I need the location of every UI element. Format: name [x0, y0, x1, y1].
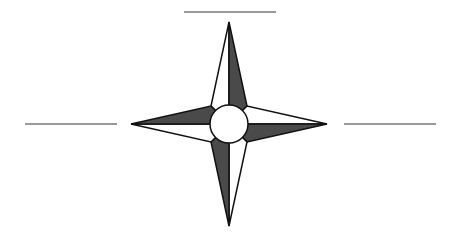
compass-star	[131, 22, 327, 226]
center-circle	[210, 105, 248, 143]
compass-rose-diagram	[0, 0, 450, 249]
